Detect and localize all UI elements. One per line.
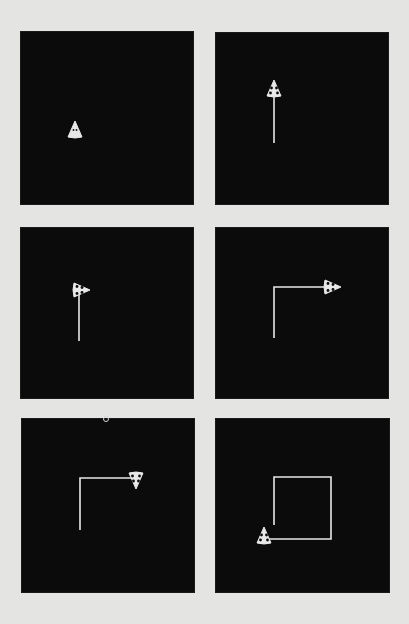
turtle-icon (129, 472, 143, 489)
step-panel-6 (216, 419, 389, 592)
turtle-icon (73, 283, 90, 297)
step-panel-1 (21, 32, 193, 204)
step-panel-3 (21, 228, 193, 398)
turtle-icon (324, 280, 341, 294)
pen-trail-line (80, 478, 136, 530)
turtle-icon (267, 80, 281, 97)
step-panel-2 (216, 33, 388, 204)
turtle-icon (257, 527, 271, 544)
scan-artifact-ring (103, 416, 109, 422)
pen-trail-line (265, 477, 331, 539)
turtle-icon (68, 121, 82, 138)
pen-trail-line (274, 287, 332, 338)
step-panel-5 (22, 419, 194, 592)
step-panel-4 (216, 228, 388, 398)
